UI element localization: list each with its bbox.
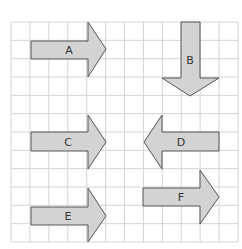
arrow-a: A	[31, 22, 106, 77]
arrow-c: C	[31, 115, 106, 169]
arrow-label: F	[178, 191, 184, 204]
arrow-label: E	[65, 210, 72, 223]
arrow-label: A	[65, 44, 73, 57]
arrow-e: E	[31, 188, 106, 242]
arrow-grid-diagram: ABCDEF	[0, 0, 242, 249]
grid-canvas: ABCDEF	[0, 0, 242, 249]
arrow-label: C	[64, 136, 72, 149]
arrow-label: B	[186, 54, 194, 67]
arrow-label: D	[177, 136, 185, 149]
